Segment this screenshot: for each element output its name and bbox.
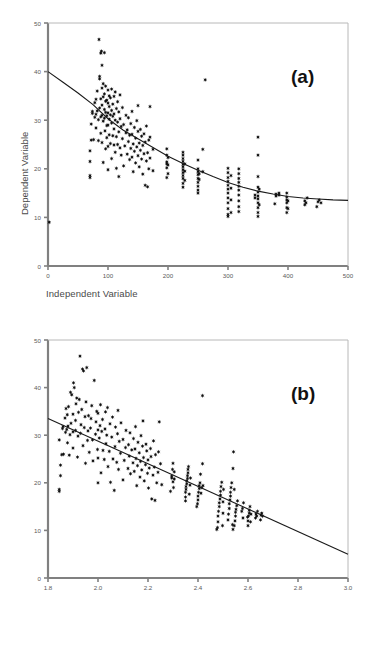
x-axis-title-a: Independent Variable (46, 288, 138, 299)
scatter-plot-a: 010203040500100200300400500(a) (0, 0, 368, 330)
panel-label: (b) (291, 383, 315, 404)
x-tick-label: 0 (46, 272, 50, 279)
y-axis-title-a: Dependent Variable (19, 132, 30, 215)
y-tick-label: 20 (34, 165, 41, 172)
y-tick-label: 30 (34, 117, 41, 124)
y-tick-label: 50 (34, 337, 41, 344)
y-tick-label: 0 (38, 575, 42, 582)
x-tick-label: 200 (163, 272, 174, 279)
y-tick-label: 10 (34, 527, 41, 534)
y-tick-label: 0 (38, 263, 42, 270)
scatter-plot-b: 010203040501.82.02.22.42.62.83.0(b) (0, 320, 368, 655)
x-tick-label: 1.8 (44, 584, 53, 591)
fit-line (48, 419, 348, 555)
y-tick-label: 20 (34, 479, 41, 486)
x-tick-label: 500 (343, 272, 354, 279)
x-tick-label: 3.0 (344, 584, 353, 591)
x-tick-label: 2.2 (144, 584, 153, 591)
y-tick-label: 10 (34, 214, 41, 221)
y-tick-label: 40 (34, 384, 41, 391)
y-tick-label: 40 (34, 68, 41, 75)
y-tick-label: 30 (34, 432, 41, 439)
x-tick-label: 2.4 (194, 584, 203, 591)
chart-panel-a: 010203040500100200300400500(a) Dependent… (0, 0, 368, 330)
chart-panel-b: 010203040501.82.02.22.42.62.83.0(b) Depe… (0, 320, 368, 655)
x-tick-label: 2.0 (94, 584, 103, 591)
x-tick-label: 2.8 (294, 584, 303, 591)
y-tick-label: 50 (34, 20, 41, 27)
x-tick-label: 300 (223, 272, 234, 279)
x-tick-label: 100 (103, 272, 114, 279)
x-tick-label: 400 (283, 272, 294, 279)
panel-label: (a) (291, 66, 314, 87)
scatter-points (48, 38, 323, 225)
x-tick-label: 2.6 (244, 584, 253, 591)
scatter-points (58, 354, 265, 531)
